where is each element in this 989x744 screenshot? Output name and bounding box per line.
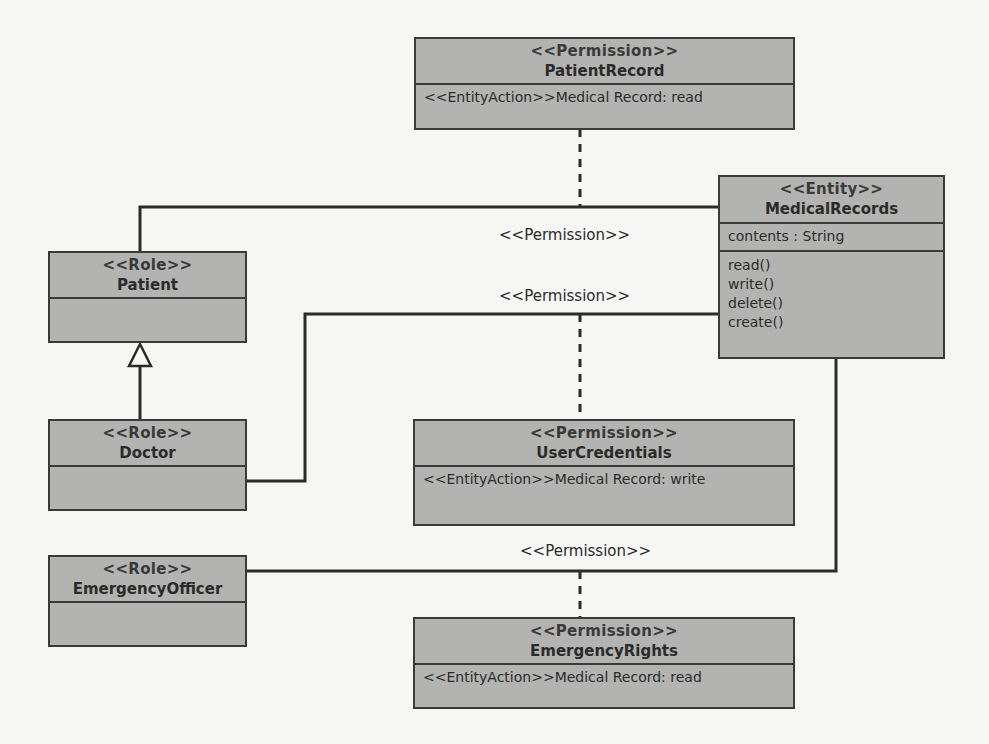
association-label-patient: <<Permission>> xyxy=(499,226,630,244)
stereotype-label: <<Permission>> xyxy=(530,424,678,443)
operation-create: create() xyxy=(720,313,943,332)
uml-diagram: <<Permission>> <<Permission>> <<Permissi… xyxy=(0,0,989,744)
class-name: EmergencyOfficer xyxy=(73,579,223,599)
class-header: <<Permission>> PatientRecord xyxy=(416,39,793,85)
stereotype-label: <<Role>> xyxy=(103,560,193,579)
class-box-medicalrecords[interactable]: <<Entity>> MedicalRecords contents : Str… xyxy=(718,175,945,359)
stereotype-label: <<Role>> xyxy=(103,424,193,443)
class-header: <<Permission>> UserCredentials xyxy=(415,421,793,467)
class-name: Doctor xyxy=(119,443,176,463)
class-header: <<Role>> Patient xyxy=(50,253,245,299)
class-box-emergencyofficer[interactable]: <<Role>> EmergencyOfficer xyxy=(48,555,247,647)
class-header: <<Role>> Doctor xyxy=(50,421,245,467)
stereotype-label: <<Permission>> xyxy=(530,622,678,641)
operation-compartment: read() write() delete() create() xyxy=(720,252,943,332)
class-name: MedicalRecords xyxy=(765,199,898,219)
class-box-doctor[interactable]: <<Role>> Doctor xyxy=(48,419,247,511)
operation-write: write() xyxy=(720,275,943,294)
stereotype-label: <<Entity>> xyxy=(780,180,883,199)
class-box-patientrecord[interactable]: <<Permission>> PatientRecord <<EntityAct… xyxy=(414,37,795,130)
association-patient-medicalrecords xyxy=(140,207,718,251)
class-header: <<Permission>> EmergencyRights xyxy=(415,619,793,665)
class-name: PatientRecord xyxy=(544,61,664,81)
association-label-doctor: <<Permission>> xyxy=(499,287,630,305)
association-label-emergency: <<Permission>> xyxy=(520,542,651,560)
class-box-usercredentials[interactable]: <<Permission>> UserCredentials <<EntityA… xyxy=(413,419,795,526)
class-body: <<EntityAction>>Medical Record: read xyxy=(415,665,793,687)
stereotype-label: <<Permission>> xyxy=(531,42,679,61)
class-name: Patient xyxy=(117,275,178,295)
entity-action: <<EntityAction>>Medical Record: read xyxy=(416,88,793,107)
entity-action: <<EntityAction>>Medical Record: read xyxy=(415,668,793,687)
operation-delete: delete() xyxy=(720,294,943,313)
generalization-arrowhead-icon xyxy=(129,344,151,366)
entity-action: <<EntityAction>>Medical Record: write xyxy=(415,470,793,489)
class-name: UserCredentials xyxy=(536,443,671,463)
class-box-emergencyrights[interactable]: <<Permission>> EmergencyRights <<EntityA… xyxy=(413,617,795,709)
class-body: <<EntityAction>>Medical Record: read xyxy=(416,85,793,107)
operation-read: read() xyxy=(720,256,943,275)
class-header: <<Role>> EmergencyOfficer xyxy=(50,557,245,603)
class-header: <<Entity>> MedicalRecords xyxy=(720,177,943,224)
attribute-compartment: contents : String xyxy=(720,224,943,252)
stereotype-label: <<Role>> xyxy=(103,256,193,275)
attribute: contents : String xyxy=(720,227,943,246)
class-body: <<EntityAction>>Medical Record: write xyxy=(415,467,793,489)
class-box-patient[interactable]: <<Role>> Patient xyxy=(48,251,247,343)
class-name: EmergencyRights xyxy=(530,641,678,661)
